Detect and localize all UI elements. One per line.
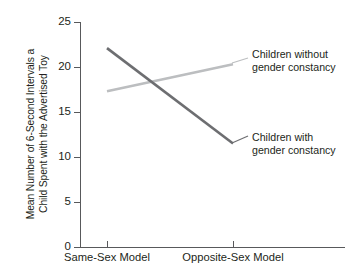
leader-line-without-gender-constancy	[232, 58, 248, 63]
legend-label-with-line-1: Children with	[252, 131, 336, 144]
legend-label-with-line-2: gender constancy	[252, 144, 336, 157]
leader-line-with-gender-constancy	[232, 136, 248, 143]
series-line-children-with-gender-constancy	[107, 48, 233, 143]
legend-label-children-with-gender-constancy: Children with gender constancy	[252, 131, 336, 157]
legend-label-children-without-gender-constancy: Children without gender constancy	[252, 48, 336, 74]
legend-label-without-line-2: gender constancy	[252, 61, 336, 74]
legend-label-without-line-1: Children without	[252, 48, 336, 61]
series-line-children-without-gender-constancy	[107, 64, 233, 91]
line-chart: Mean Number of 6-Second Intervals a Chil…	[0, 0, 362, 270]
